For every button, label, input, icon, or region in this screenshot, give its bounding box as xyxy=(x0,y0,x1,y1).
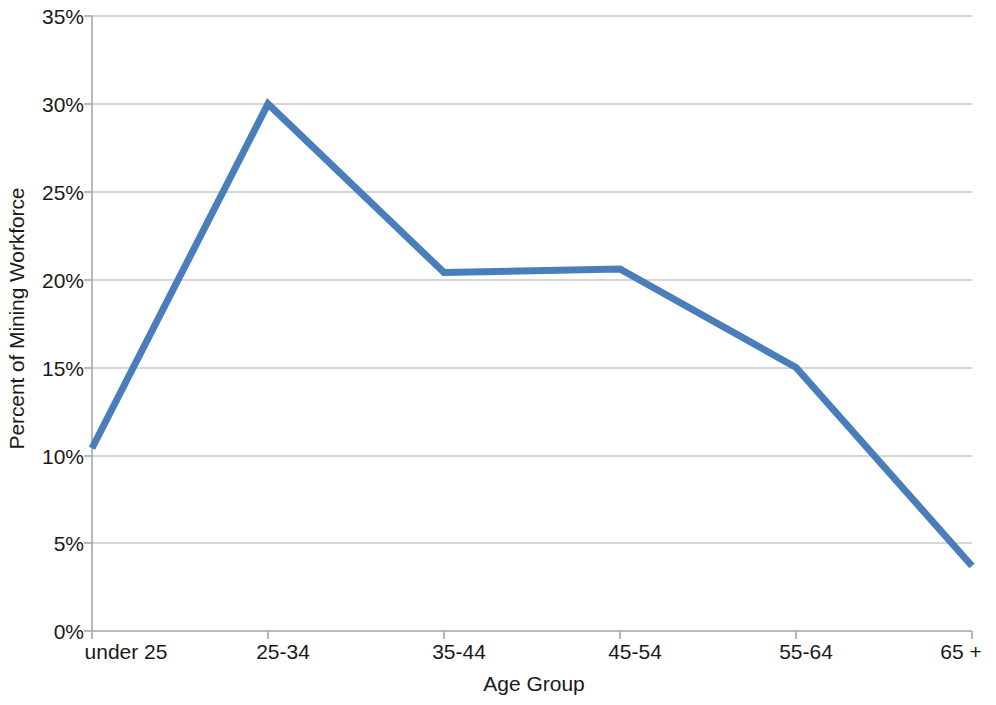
x-axis-title: Age Group xyxy=(92,672,976,696)
x-tick-label-25-34: 25-34 xyxy=(256,641,310,662)
x-tick-label-35-44: 35-44 xyxy=(432,641,486,662)
y-axis-ticks xyxy=(84,16,92,631)
x-tick-label-55-64: 55-64 xyxy=(779,641,833,662)
y-axis-title: Percent of Mining Workforce xyxy=(0,0,34,705)
x-axis-ticks xyxy=(92,631,972,639)
y-axis-title-text: Percent of Mining Workforce xyxy=(5,188,29,450)
axis-lines xyxy=(92,16,972,631)
x-tick-label-65-plus: 65 + xyxy=(940,641,981,662)
x-tick-label-45-54: 45-54 xyxy=(608,641,662,662)
plot-area xyxy=(0,0,996,705)
gridlines xyxy=(92,16,972,543)
data-series-line xyxy=(92,104,972,566)
x-tick-label-under-25: under 25 xyxy=(85,641,168,662)
line-chart: 35% 30% 25% 20% 15% 10% 5% 0% under 25 2… xyxy=(0,0,996,705)
